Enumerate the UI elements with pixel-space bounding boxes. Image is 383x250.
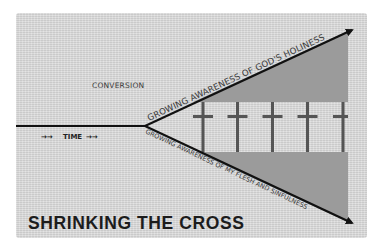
conversion-label: CONVERSION bbox=[92, 81, 144, 90]
diagram-title: SHRINKING THE CROSS bbox=[28, 213, 245, 233]
cross-icon bbox=[228, 102, 248, 152]
crosses-group bbox=[193, 102, 348, 152]
time-arrows-right-icon: →→ bbox=[86, 133, 98, 141]
time-label-group: →→ TIME →→ bbox=[41, 133, 98, 141]
time-label: TIME bbox=[63, 133, 82, 141]
shrinking-cross-diagram: CONVERSION →→ TIME →→ GROWING AWARENESS … bbox=[0, 0, 383, 250]
cross-icon bbox=[333, 102, 348, 152]
cross-icon bbox=[263, 102, 283, 152]
cross-icon bbox=[298, 102, 318, 152]
time-arrows-left-icon: →→ bbox=[41, 133, 53, 141]
cross-icon bbox=[193, 102, 213, 152]
